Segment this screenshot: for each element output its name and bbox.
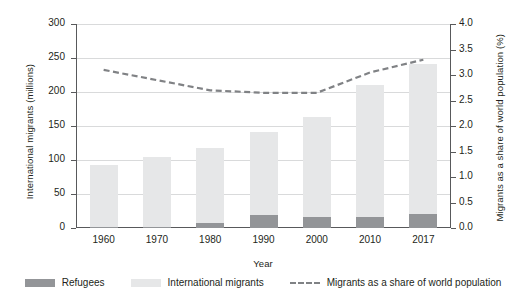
y-axis-left-tick <box>71 58 76 59</box>
y-axis-right-tick <box>451 101 456 102</box>
y-axis-right-tick <box>451 177 456 178</box>
legend-label: Migrants as a share of world population <box>327 277 502 288</box>
x-axis-tick-label: 2017 <box>398 234 448 245</box>
x-axis-tick-label: 2010 <box>345 234 395 245</box>
legend-item[interactable]: Refugees <box>25 277 105 288</box>
y-axis-right-tick <box>451 24 456 25</box>
x-axis-tick-label: 2000 <box>292 234 342 245</box>
y-axis-right-tick-label: 4.0 <box>459 17 493 28</box>
y-axis-left-tick <box>71 92 76 93</box>
y-axis-left-tick-label: 300 <box>31 17 65 28</box>
y-axis-right-tick <box>451 228 456 229</box>
y-axis-left-tick-label: 100 <box>31 153 65 164</box>
plot-area: 050100150200250300 0.00.51.01.52.02.53.0… <box>77 24 450 228</box>
legend-color-swatch-icon <box>131 279 161 287</box>
y-axis-left-tick <box>71 228 76 229</box>
legend-item[interactable]: Migrants as a share of world population <box>290 277 502 288</box>
y-axis-right-tick <box>451 203 456 204</box>
y-axis-right-tick <box>451 126 456 127</box>
legend-item[interactable]: International migrants <box>131 277 264 288</box>
y-axis-right-tick-label: 2.0 <box>459 119 493 130</box>
share-line-path <box>104 60 424 93</box>
x-axis-tick-label: 1990 <box>239 234 289 245</box>
y-axis-left-tick-label: 0 <box>31 221 65 232</box>
y-axis-right-title: Migrants as a share of world population … <box>494 42 505 222</box>
y-axis-left-tick <box>71 194 76 195</box>
y-axis-right-tick-label: 1.5 <box>459 145 493 156</box>
y-axis-left-tick <box>71 160 76 161</box>
y-axis-right-tick-label: 2.5 <box>459 94 493 105</box>
y-axis-left-tick <box>71 126 76 127</box>
y-axis-right-tick <box>451 50 456 51</box>
x-axis-tick-label: 1970 <box>132 234 182 245</box>
share-of-population-line <box>77 24 450 228</box>
legend-color-swatch-icon <box>25 279 55 287</box>
y-axis-left-tick-label: 50 <box>31 187 65 198</box>
y-axis-left-tick-label: 200 <box>31 85 65 96</box>
chart-legend: RefugeesInternational migrantsMigrants a… <box>0 277 526 288</box>
y-axis-right-tick-label: 3.0 <box>459 68 493 79</box>
y-axis-left-tick-label: 250 <box>31 51 65 62</box>
legend-label: Refugees <box>62 277 105 288</box>
y-axis-right-tick-label: 1.0 <box>459 170 493 181</box>
migration-chart-figure: International migrants (millions) Migran… <box>0 0 526 304</box>
legend-label: International migrants <box>168 277 264 288</box>
x-axis-title: Year <box>0 258 526 269</box>
y-axis-right-tick-label: 0.0 <box>459 221 493 232</box>
x-axis-tick-label: 1980 <box>185 234 235 245</box>
legend-dashed-line-icon <box>290 282 320 284</box>
y-axis-left-tick-label: 150 <box>31 119 65 130</box>
y-axis-right-tick-label: 0.5 <box>459 196 493 207</box>
y-axis-left-tick <box>71 24 76 25</box>
y-axis-right-tick-label: 3.5 <box>459 43 493 54</box>
y-axis-right-tick <box>451 75 456 76</box>
x-axis-tick-label: 1960 <box>79 234 129 245</box>
y-axis-right-tick <box>451 152 456 153</box>
